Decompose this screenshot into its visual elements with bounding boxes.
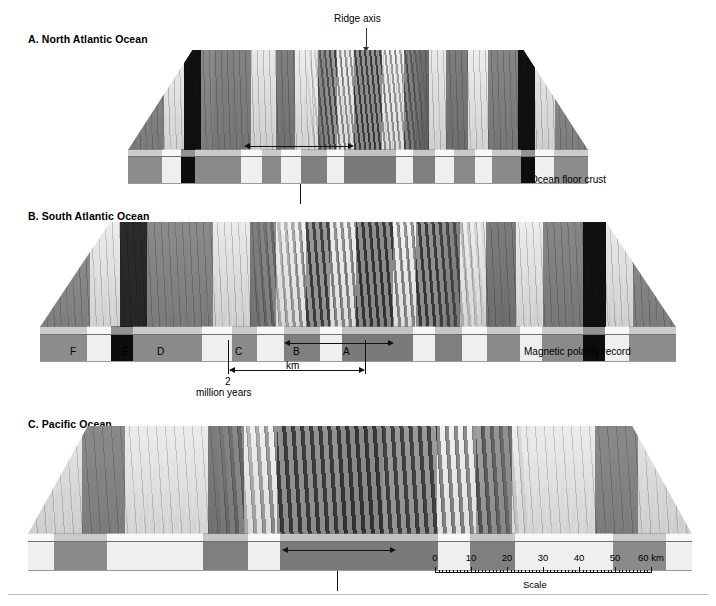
polarity-crust-band [396, 157, 413, 183]
block-c-sediment-layer [28, 533, 692, 541]
sediment-band [128, 149, 162, 156]
block-b-sediment-layer [40, 326, 676, 334]
block-b-spreading-arrow-right-icon [388, 340, 394, 346]
panel-south-atlantic: B. South Atlantic Ocean F E D C B A Magn… [0, 196, 716, 404]
block-a-spreading-arrow-left-icon [244, 143, 250, 149]
sediment-band [28, 533, 54, 541]
anomaly-label-c: C [235, 346, 242, 357]
scale-minor-tick [500, 570, 501, 573]
sediment-band [284, 326, 320, 334]
scale-minor-tick [467, 570, 468, 573]
sediment-band [320, 326, 342, 334]
sediment-band [232, 326, 257, 334]
scale-minor-tick [521, 570, 522, 573]
sediment-band [435, 149, 454, 156]
scale-minor-tick [572, 570, 573, 573]
scale-tick-label: 50 [599, 552, 631, 563]
sediment-band [257, 326, 284, 334]
scale-minor-tick [604, 570, 605, 573]
sediment-band [438, 533, 470, 541]
scale-minor-tick [575, 570, 576, 573]
scale-minor-tick [485, 570, 486, 573]
scale-minor-tick [640, 570, 641, 573]
sediment-band [344, 149, 397, 156]
scale-minor-tick [583, 570, 584, 573]
sediment-band [281, 149, 300, 156]
scale-minor-tick [590, 570, 591, 573]
scale-major-tick [507, 567, 508, 573]
sediment-band [280, 533, 438, 541]
sediment-band [605, 326, 630, 334]
polarity-crust-band [301, 157, 327, 183]
block-a-top-face [128, 50, 588, 150]
sediment-band [40, 326, 87, 334]
polarity-crust-band [487, 335, 520, 361]
block-a-sediment-layer [128, 149, 588, 156]
polarity-crust-band [257, 335, 284, 361]
panel-north-atlantic: A. North Atlantic Ocean Ridge axis Ocean… [0, 0, 716, 196]
km-bracket-right-tick [365, 340, 366, 374]
scale-minor-tick [475, 570, 476, 573]
km-label: km [286, 360, 299, 371]
sediment-band [583, 326, 605, 334]
polarity-crust-band [413, 157, 435, 183]
scale-minor-tick [597, 570, 598, 573]
sediment-band [87, 326, 112, 334]
scale-minor-tick [460, 570, 461, 573]
sediment-band [54, 533, 107, 541]
scale-minor-tick [525, 570, 526, 573]
panel-pacific: C. Pacific Ocean 0102030405060 km Scale [0, 404, 716, 606]
scale-major-tick [579, 567, 580, 573]
block-c-spreading-arrow-right-icon [390, 547, 396, 553]
sediment-band [462, 326, 487, 334]
polarity-crust-band [413, 335, 435, 361]
scale-minor-tick [511, 570, 512, 573]
scale-major-tick [615, 567, 616, 573]
anomaly-label-b: B [293, 346, 300, 357]
polarity-crust-band [475, 157, 492, 183]
sediment-band [521, 149, 535, 156]
scale-minor-tick [496, 570, 497, 573]
sediment-band [535, 149, 554, 156]
polarity-crust-band [666, 542, 692, 570]
sediment-band [181, 149, 195, 156]
polarity-crust-band [435, 157, 454, 183]
polarity-crust-band [262, 157, 281, 183]
scale-minor-tick [449, 570, 450, 573]
scale-minor-tick [626, 570, 627, 573]
polarity-crust-band [454, 157, 476, 183]
scale-tick-label: 60 km [635, 552, 667, 563]
sediment-band [241, 149, 263, 156]
sediment-band [487, 326, 520, 334]
polarity-crust-band [241, 157, 263, 183]
anomaly-label-e: E [122, 346, 129, 357]
sediment-band [554, 149, 588, 156]
sediment-band [162, 149, 181, 156]
block-c-top-face [28, 426, 692, 534]
block-c [0, 426, 716, 546]
sediment-band [515, 533, 613, 541]
polarity-crust-band [320, 335, 342, 361]
polarity-crust-band [342, 335, 413, 361]
sediment-band [111, 326, 133, 334]
polarity-crust-band [162, 157, 181, 183]
sediment-band [133, 326, 202, 334]
scale-minor-tick [457, 570, 458, 573]
scale-major-tick [471, 567, 472, 573]
sediment-band [342, 326, 413, 334]
scale-minor-tick [453, 570, 454, 573]
polarity-crust-band [195, 157, 241, 183]
block-c-spreading-arrow-left-icon [282, 547, 288, 553]
scale-tick-label: 0 [419, 552, 451, 563]
sediment-band [203, 533, 248, 541]
polarity-crust-band [462, 335, 487, 361]
block-b-spreading-arrow-left-icon [284, 340, 290, 346]
polarity-crust-band [181, 157, 195, 183]
sediment-band [454, 149, 476, 156]
polarity-crust-band [40, 335, 87, 361]
scale-minor-tick [593, 570, 594, 573]
block-a [0, 50, 716, 180]
block-b [0, 222, 716, 342]
scale-minor-tick [503, 570, 504, 573]
scale-minor-tick [550, 570, 551, 573]
